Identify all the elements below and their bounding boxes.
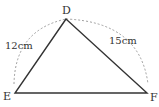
dashed-arc-de bbox=[14, 19, 66, 84]
side-label-de: 12cm bbox=[5, 40, 33, 51]
vertex-label-d: D bbox=[62, 4, 71, 17]
triangle-def bbox=[15, 19, 147, 93]
vertex-label-f: F bbox=[150, 91, 158, 104]
diagram-svg: D E F 12cm 15cm bbox=[0, 0, 159, 107]
triangle-diagram: D E F 12cm 15cm bbox=[0, 0, 159, 107]
dashed-arc-df bbox=[66, 19, 148, 84]
side-label-df: 15cm bbox=[109, 35, 137, 46]
vertex-label-e: E bbox=[3, 90, 11, 103]
